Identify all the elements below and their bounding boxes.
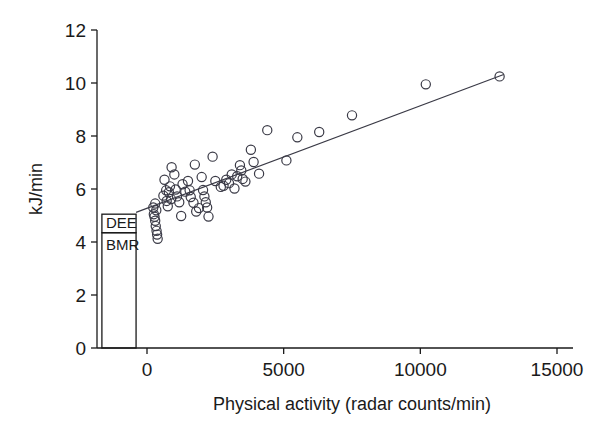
x-tick-label: 5000 [263,359,305,380]
y-tick-label: 0 [75,338,86,359]
chart-figure: DEEBMR 024681012050001000015000Physical … [0,0,611,435]
y-tick-label: 10 [65,73,86,94]
annotation-label-dee: DEE [106,214,137,231]
y-tick-label: 8 [75,126,86,147]
x-axis-title: Physical activity (radar counts/min) [213,394,491,414]
y-axis-title: kJ/min [26,163,46,215]
x-tick-label: 15000 [531,359,584,380]
y-tick-label: 4 [75,232,86,253]
y-tick-label: 6 [75,179,86,200]
x-tick-label: 0 [142,359,153,380]
scatter-plot: DEEBMR 024681012050001000015000Physical … [0,0,611,435]
annotation-label-bmr: BMR [106,236,139,253]
plot-background [0,0,611,435]
y-tick-label: 2 [75,285,86,306]
x-tick-label: 10000 [394,359,447,380]
y-tick-label: 12 [65,20,86,41]
